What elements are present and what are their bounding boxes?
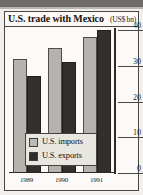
y-tick-label-30: 30 bbox=[133, 57, 141, 66]
y-tick-rule-30 bbox=[118, 66, 143, 67]
y-tick-rule-40 bbox=[118, 30, 143, 31]
y-tick-rule-20 bbox=[118, 102, 143, 103]
chart-legend: U.S. imports U.S. exports bbox=[25, 133, 97, 166]
bar-1991-exports bbox=[97, 30, 111, 173]
legend-swatch-imports bbox=[29, 138, 38, 147]
y-tick-rule-10 bbox=[118, 137, 143, 138]
x-tick-label-1989: 1989 bbox=[9, 176, 44, 184]
scan-edge-band bbox=[0, 0, 143, 7]
page-title: U.S. trade with Mexico bbox=[8, 13, 104, 24]
y-tick-label-0: 0 bbox=[137, 164, 141, 173]
chart-title-bar: U.S. trade with Mexico (US$ bn) bbox=[5, 12, 138, 27]
y-tick-label-10: 10 bbox=[133, 128, 141, 137]
legend-label-exports: U.S. exports bbox=[42, 150, 82, 160]
x-axis-line bbox=[9, 172, 116, 173]
y-tick-rule-0 bbox=[118, 173, 143, 174]
y-tick-label-20: 20 bbox=[133, 93, 141, 102]
scan-edge-band-soft bbox=[0, 7, 143, 9]
figure-clipping: U.S. trade with Mexico (US$ bn) 40302010… bbox=[0, 0, 143, 195]
y-axis-line bbox=[114, 28, 116, 174]
legend-label-imports: U.S. imports bbox=[42, 136, 83, 146]
y-tick-label-40: 40 bbox=[133, 21, 141, 30]
legend-swatch-exports bbox=[29, 152, 38, 161]
x-tick-label-1990: 1990 bbox=[44, 176, 79, 184]
x-tick-label-1991: 1991 bbox=[79, 176, 114, 184]
